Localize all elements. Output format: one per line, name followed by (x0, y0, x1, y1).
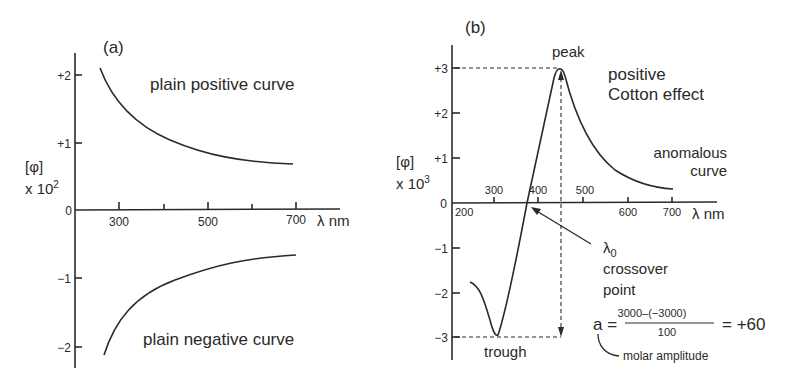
panel-b-x-axis (452, 202, 717, 203)
molar-amplitude-label: molar amplitude (623, 349, 709, 363)
panel-b-label: (b) (465, 18, 486, 37)
crossover-arrow-icon (531, 207, 541, 215)
panel-a-ylabel-scale: x 102 (25, 179, 59, 197)
svg-text:600: 600 (619, 206, 637, 218)
svg-text:−1: −1 (57, 272, 71, 286)
panel-b: (b) +3 +2 +1 0 −1 −2 −3 [φ] x 103 (396, 18, 766, 363)
plain-positive-label: plain positive curve (150, 75, 295, 94)
figure: (a) +2 +1 0 −1 −2 [φ] x 102 300 500 (0, 0, 790, 389)
panel-b-xlabel: λ nm (692, 205, 725, 222)
svg-text:0: 0 (65, 204, 72, 218)
crossover-label-line1: crossover (603, 260, 668, 277)
svg-text:400: 400 (529, 184, 547, 196)
panel-a-ylabel-symbol: [φ] (25, 158, 43, 175)
svg-text:+3: +3 (434, 62, 448, 76)
lambda-zero-label: λ0 (603, 239, 617, 259)
panel-a-x-ticks: 300 500 700 (109, 202, 306, 229)
anomalous-label-line1: anomalous (654, 144, 727, 161)
svg-text:a =: a = (593, 315, 617, 334)
panel-b-ylabel-scale: x 103 (396, 174, 430, 192)
panel-b-x-ticks: 200 300 400 500 600 700 (455, 184, 681, 218)
svg-text:+2: +2 (57, 69, 71, 83)
svg-text:−1: −1 (434, 242, 448, 256)
arrow-down-icon (558, 327, 564, 337)
svg-text:0: 0 (440, 197, 447, 211)
panel-a-y-ticks: +2 +1 0 −1 −2 (57, 69, 82, 355)
svg-text:700: 700 (286, 213, 306, 227)
svg-text:3000–(−3000): 3000–(−3000) (618, 307, 687, 319)
panel-a-x-axis (75, 209, 340, 210)
cotton-title-line2: Cotton effect (608, 85, 704, 104)
cotton-title-line1: positive (608, 65, 666, 84)
crossover-arrow-line (535, 210, 591, 244)
svg-text:500: 500 (198, 215, 218, 229)
panel-a-label: (a) (103, 38, 124, 57)
crossover-label-line2: point (603, 281, 636, 298)
svg-text:300: 300 (109, 215, 129, 229)
anomalous-label-line2: curve (690, 162, 727, 179)
svg-text:100: 100 (658, 326, 676, 338)
svg-text:700: 700 (663, 206, 681, 218)
amplitude-formula: a = 3000–(−3000) 100 = +60 (593, 307, 766, 338)
svg-text:−3: −3 (434, 331, 448, 345)
svg-text:+1: +1 (434, 152, 448, 166)
svg-text:+1: +1 (57, 137, 71, 151)
panel-a: (a) +2 +1 0 −1 −2 [φ] x 102 300 500 (25, 38, 350, 368)
svg-text:−2: −2 (434, 287, 448, 301)
peak-label: peak (552, 43, 585, 60)
panel-b-ylabel-symbol: [φ] (396, 153, 414, 170)
panel-a-xlabel: λ nm (317, 212, 350, 229)
svg-text:200: 200 (455, 206, 473, 218)
trough-label: trough (484, 343, 527, 360)
svg-text:−2: −2 (57, 341, 71, 355)
amplitude-bracket (598, 334, 619, 356)
svg-text:= +60: = +60 (722, 315, 766, 334)
svg-text:+2: +2 (434, 107, 448, 121)
plain-negative-label: plain negative curve (143, 330, 294, 349)
svg-text:300: 300 (485, 184, 503, 196)
svg-text:500: 500 (576, 184, 594, 196)
